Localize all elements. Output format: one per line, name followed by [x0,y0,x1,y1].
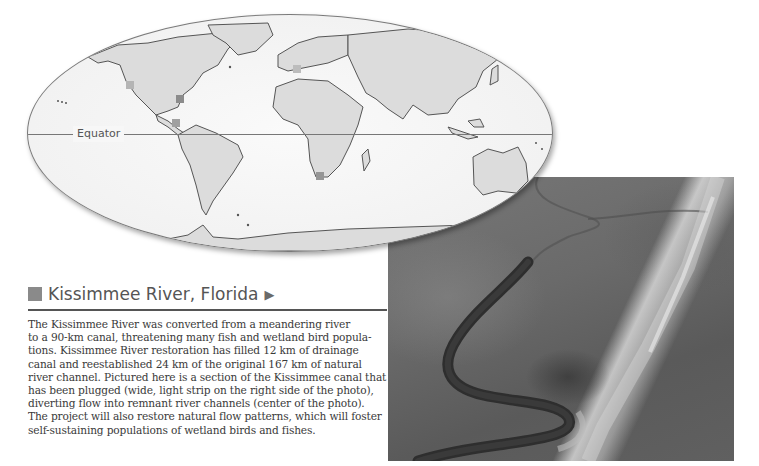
body-line: river channel. Pictured here is a sectio… [28,371,390,384]
world-map: Equator [27,14,551,250]
body-line: tions. Kissimmee River restoration has f… [28,344,390,357]
body-line: canal and reestablished 24 km of the ori… [28,358,390,371]
heading-square-icon [28,287,42,301]
heading-rule [28,309,387,311]
body-line: The Kissimmee River was converted from a… [28,318,390,331]
section-heading: Kissimmee River, Florida ▶ [28,284,388,304]
section-title: Kissimmee River, Florida [48,284,258,304]
body-line: The project will also restore natural fl… [28,410,390,423]
body-line: self-sustaining populations of wetland b… [28,424,390,437]
equator-label: Equator [73,126,124,142]
section-body: The Kissimmee River was converted from a… [28,318,390,437]
map-oval: Equator [27,14,553,252]
body-line: diverting flow into remnant river channe… [28,397,390,410]
body-line: has been plugged (wide, light strip on t… [28,384,390,397]
right-arrow-icon: ▶ [264,287,274,302]
body-line: to a 90-km canal, threatening many fish … [28,331,390,344]
